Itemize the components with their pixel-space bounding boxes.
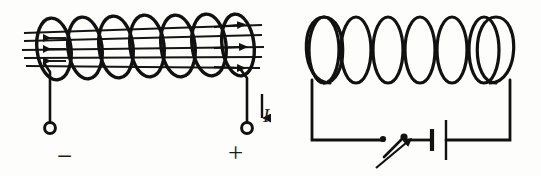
field-arrow-right-3 bbox=[214, 67, 238, 68]
right-coil-turn-3 bbox=[373, 17, 403, 83]
figure-canvas bbox=[0, 0, 541, 176]
switch-contact-left[interactable] bbox=[380, 136, 386, 142]
circuit-wire-right bbox=[446, 80, 510, 140]
positive-terminal-ring[interactable] bbox=[242, 123, 253, 134]
battery-symbol bbox=[404, 120, 446, 160]
positive-terminal-label: + bbox=[228, 140, 243, 167]
right-circuit-group bbox=[306, 17, 513, 168]
lead-wire-positive bbox=[241, 70, 247, 122]
left-solenoid-group bbox=[22, 12, 264, 133]
switch-pointer-arrow bbox=[376, 143, 406, 168]
solenoid-figure: − + I bbox=[0, 0, 541, 176]
circuit-wires bbox=[312, 80, 510, 140]
right-coil-turn-6 bbox=[469, 17, 499, 83]
circuit-wire-left bbox=[312, 80, 382, 140]
right-coil-turn-4 bbox=[405, 17, 435, 83]
negative-terminal-label: − bbox=[57, 143, 72, 170]
solenoid-coil-right bbox=[306, 17, 513, 83]
current-label: I bbox=[263, 106, 269, 125]
right-coil-turn-1 bbox=[309, 17, 339, 83]
right-coil-turn-5 bbox=[437, 17, 467, 83]
negative-terminal-ring[interactable] bbox=[45, 123, 56, 134]
right-coil-turn-2 bbox=[341, 17, 371, 83]
